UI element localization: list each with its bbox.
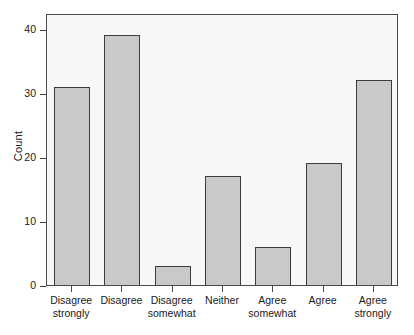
y-axis-tick-label: 0 [30,279,36,291]
x-axis-tick-mark [71,286,72,292]
y-axis-tick-label: 10 [24,215,36,227]
bar [155,266,191,285]
y-axis-title: Count [12,116,24,176]
x-axis-tick-mark [172,286,173,292]
x-axis-tick-mark [121,286,122,292]
x-axis-tick-mark [323,286,324,292]
y-axis-tick-label: 40 [24,23,36,35]
x-axis-tick-mark [373,286,374,292]
bar [104,35,140,285]
bar [255,247,291,285]
bar-chart: Count 010203040 Disagree stronglyDisagre… [0,0,414,335]
bar [356,80,392,285]
x-axis-tick-mark [272,286,273,292]
bar [205,176,241,285]
y-axis-tick-label: 20 [24,151,36,163]
x-axis-tick-mark [222,286,223,292]
bar-group [47,15,397,285]
y-axis-tick-label: 30 [24,87,36,99]
bar [306,163,342,285]
plot-panel [46,14,398,286]
bar [54,87,90,285]
x-axis-tick-label: Agree strongly [338,294,408,320]
